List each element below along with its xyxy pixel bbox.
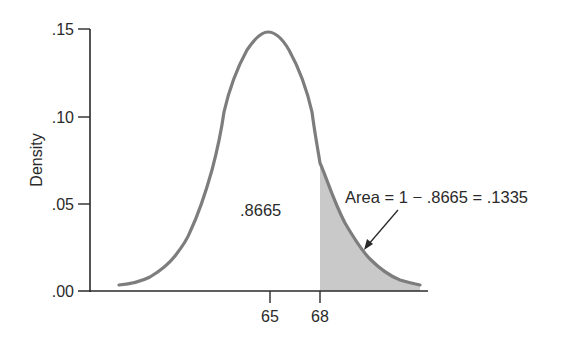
shaded-tail-area xyxy=(320,163,420,291)
density-curve xyxy=(119,32,420,285)
y-axis-title: Density xyxy=(28,133,45,186)
annotation-arrow-icon xyxy=(364,210,398,250)
tail-area-label: Area = 1 − .8665 = .1335 xyxy=(345,188,528,206)
normal-density-chart: .15 .10 .05 .00 65 68 Density .8665 Area… xyxy=(0,0,569,341)
y-tick-label: .10 xyxy=(52,109,74,126)
y-tick-label: .00 xyxy=(52,283,74,300)
y-tick-label: .05 xyxy=(52,196,74,213)
center-area-label: .8665 xyxy=(240,201,281,219)
y-tick-label: .15 xyxy=(52,21,74,38)
x-tick-label: 68 xyxy=(311,308,329,325)
x-tick-label: 65 xyxy=(261,308,279,325)
